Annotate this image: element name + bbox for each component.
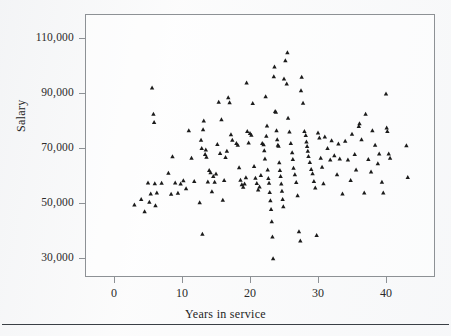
y-tick-label-30000: 30,000: [16, 251, 74, 263]
x-tick-label-20: 20: [230, 286, 270, 301]
x-tick-mark: [386, 277, 387, 283]
x-tick-mark: [318, 277, 319, 283]
scatter-figure: 110,000 90,000 70,000 50,000 30,000 0 10…: [0, 0, 451, 336]
x-tick-mark: [114, 277, 115, 283]
x-tick-label-40: 40: [366, 286, 406, 301]
y-tick-label-50000: 50,000: [16, 196, 74, 208]
y-tick-label-70000: 70,000: [16, 141, 74, 153]
x-tick-label-10: 10: [162, 286, 202, 301]
x-tick-mark: [250, 277, 251, 283]
y-tick-mark: [79, 38, 85, 39]
y-tick-mark: [79, 148, 85, 149]
plot-frame: [85, 14, 435, 277]
x-tick-label-30: 30: [298, 286, 338, 301]
y-tick-label-90000: 90,000: [16, 86, 74, 98]
x-tick-mark: [182, 277, 183, 283]
y-axis-title: Salary: [14, 100, 29, 132]
y-tick-label-110000: 110,000: [16, 31, 74, 43]
y-tick-mark: [79, 93, 85, 94]
page-bottom-rule: [2, 324, 449, 325]
y-tick-mark: [79, 258, 85, 259]
x-axis-title: Years in service: [0, 307, 451, 322]
y-tick-mark: [79, 203, 85, 204]
x-tick-label-0: 0: [94, 286, 134, 301]
